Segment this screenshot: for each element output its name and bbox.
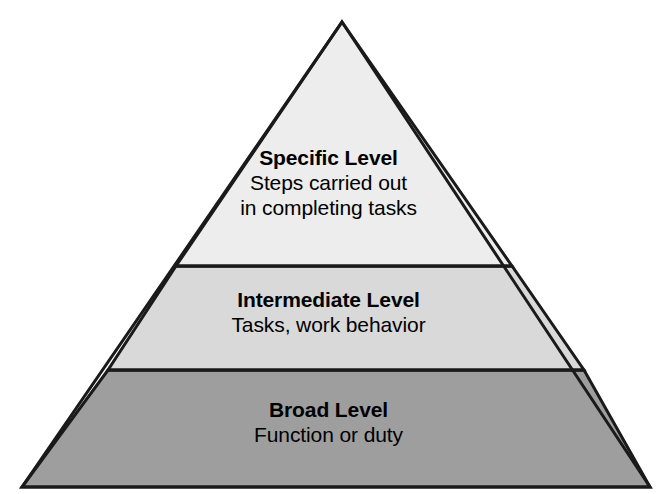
tier-specific-line-1: Steps carried out [0,171,657,196]
tier-specific-line-2: in completing tasks [0,196,657,221]
pyramid-tier-specific-shape [176,22,512,266]
pyramid-tier-broad-label: Broad Level Function or duty [0,398,657,448]
pyramid-diagram: Specific Level Steps carried out in comp… [0,0,657,494]
pyramid-tier-intermediate-label: Intermediate Level Tasks, work behavior [0,288,657,338]
tier-intermediate-line-1: Tasks, work behavior [0,313,657,338]
tier-broad-title: Broad Level [0,398,657,423]
tier-intermediate-title: Intermediate Level [0,288,657,313]
tier-specific-title: Specific Level [0,146,657,171]
pyramid-tier-specific-label: Specific Level Steps carried out in comp… [0,146,657,220]
tier-broad-line-1: Function or duty [0,423,657,448]
